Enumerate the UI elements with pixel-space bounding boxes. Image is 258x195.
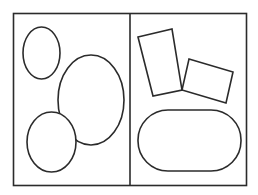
shapes-diagram xyxy=(0,0,258,195)
rounded-rectangle xyxy=(138,110,241,171)
bottom-ellipse xyxy=(27,112,76,172)
left-panel xyxy=(23,27,124,172)
right-panel xyxy=(138,29,241,171)
tilted-rectangle-right xyxy=(182,59,233,103)
small-ellipse xyxy=(23,27,60,79)
tilted-rectangle-left xyxy=(138,29,182,96)
